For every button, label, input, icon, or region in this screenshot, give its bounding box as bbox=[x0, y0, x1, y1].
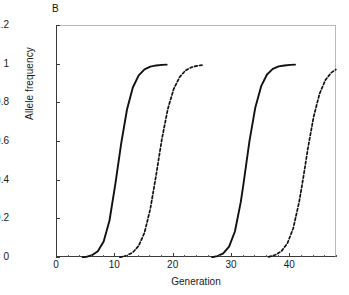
x-minor-tick bbox=[161, 255, 162, 258]
x-minor-tick bbox=[336, 255, 337, 258]
x-minor-tick bbox=[219, 255, 220, 258]
y-tick-mark-3 bbox=[56, 141, 60, 142]
x-minor-tick bbox=[313, 255, 314, 258]
x-tick-label-1: 10 bbox=[94, 260, 134, 270]
curve-sweep-2-dashed bbox=[120, 65, 204, 257]
y-tick-label-5: 1 bbox=[0, 59, 9, 69]
plot-area bbox=[56, 25, 336, 257]
y-tick-mark-2 bbox=[56, 180, 60, 181]
x-minor-tick bbox=[184, 255, 185, 258]
x-tick-label-3: 30 bbox=[211, 260, 251, 270]
y-tick-label-1: 0.2 bbox=[0, 213, 9, 223]
x-minor-tick bbox=[254, 255, 255, 258]
y-tick-label-3: 0.6 bbox=[0, 136, 9, 146]
x-tick-mark-3 bbox=[231, 253, 232, 257]
x-minor-tick bbox=[68, 255, 69, 258]
y-tick-mark-4 bbox=[56, 102, 60, 103]
y-tick-mark-5 bbox=[56, 64, 60, 65]
x-tick-mark-0 bbox=[56, 253, 57, 257]
y-tick-label-0: 0 bbox=[0, 252, 9, 262]
y-tick-label-4: 0.8 bbox=[0, 97, 9, 107]
curve-sweep-1-solid bbox=[83, 65, 167, 258]
x-minor-tick bbox=[243, 255, 244, 258]
y-axis-title: Allele frequency bbox=[24, 14, 35, 154]
y-tick-label-6: 1.2 bbox=[0, 20, 9, 30]
x-minor-tick bbox=[266, 255, 267, 258]
panel-label: B bbox=[52, 3, 59, 14]
x-axis-title: Generation bbox=[56, 276, 336, 287]
y-tick-mark-0 bbox=[56, 257, 60, 258]
x-tick-label-2: 20 bbox=[153, 260, 193, 270]
x-minor-tick bbox=[138, 255, 139, 258]
curve-sweep-3-solid bbox=[212, 65, 295, 258]
x-tick-mark-2 bbox=[173, 253, 174, 257]
x-minor-tick bbox=[278, 255, 279, 258]
y-tick-label-2: 0.4 bbox=[0, 175, 9, 185]
x-minor-tick bbox=[103, 255, 104, 258]
x-tick-mark-4 bbox=[289, 253, 290, 257]
x-tick-label-0: 0 bbox=[36, 260, 76, 270]
y-tick-mark-1 bbox=[56, 218, 60, 219]
x-minor-tick bbox=[196, 255, 197, 258]
x-minor-tick bbox=[149, 255, 150, 258]
x-minor-tick bbox=[79, 255, 80, 258]
figure-panel-b: B Allele frequency Generation 00.20.40.6… bbox=[0, 0, 349, 295]
x-minor-tick bbox=[91, 255, 92, 258]
curves-svg bbox=[57, 26, 337, 258]
x-tick-label-4: 40 bbox=[269, 260, 309, 270]
y-tick-mark-6 bbox=[56, 25, 60, 26]
x-minor-tick bbox=[208, 255, 209, 258]
x-minor-tick bbox=[301, 255, 302, 258]
x-minor-tick bbox=[324, 255, 325, 258]
x-tick-mark-1 bbox=[114, 253, 115, 257]
curve-sweep-4-dashed bbox=[269, 70, 336, 257]
x-minor-tick bbox=[126, 255, 127, 258]
